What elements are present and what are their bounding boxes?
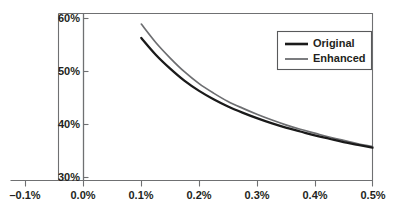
x-tick-label-0.2: 0.2%	[186, 189, 211, 201]
x-tick-label-0.4: 0.4%	[302, 189, 327, 201]
y-tick-label-30: 30%	[58, 171, 80, 183]
x-tick-labels: –0.1% 0.0% 0.1% 0.2% 0.3% 0.4% 0.5%	[9, 189, 385, 201]
x-tick-label-neg0.1: –0.1%	[9, 189, 40, 201]
legend-label-original: Original	[313, 37, 355, 49]
chart-legend[interactable]: Original Enhanced	[278, 32, 372, 70]
y-tick-label-40: 40%	[58, 118, 80, 130]
y-axis	[84, 14, 89, 181]
line-chart: 60% 50% 40% 30% –0.1% 0.0% 0.1% 0.2% 0.3…	[0, 0, 397, 213]
y-tick-label-50: 50%	[58, 65, 80, 77]
x-tick-label-0.1: 0.1%	[128, 189, 153, 201]
x-tick-label-0.0: 0.0%	[70, 189, 95, 201]
x-tick-label-0.3: 0.3%	[244, 189, 269, 201]
y-tick-labels: 60% 50% 40% 30%	[58, 12, 80, 183]
y-tick-label-60: 60%	[58, 12, 80, 24]
chart-page: 60% 50% 40% 30% –0.1% 0.0% 0.1% 0.2% 0.3…	[0, 0, 397, 213]
legend-label-enhanced: Enhanced	[313, 52, 366, 64]
x-tick-label-0.5: 0.5%	[360, 189, 385, 201]
